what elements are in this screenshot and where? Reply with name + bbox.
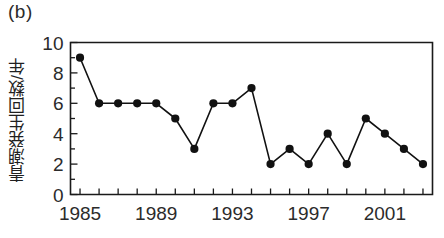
y-tick-label: 6 — [53, 93, 64, 114]
y-tick-label: 8 — [53, 63, 64, 84]
x-axis-tick-labels: 19851989199319972001 — [59, 203, 406, 224]
data-point — [266, 160, 274, 168]
data-point — [114, 99, 122, 107]
y-tick-label: 2 — [53, 154, 64, 175]
figure-panel: (b) 青潮発生回数/年 0246810 1985198919931997200… — [0, 0, 444, 238]
data-point — [305, 160, 313, 168]
x-tick-label: 1997 — [288, 203, 330, 224]
data-point — [324, 130, 332, 138]
x-tick-label: 1993 — [211, 203, 253, 224]
data-point — [228, 99, 236, 107]
data-point — [343, 160, 351, 168]
data-point — [152, 99, 160, 107]
data-point-markers — [76, 54, 427, 169]
y-axis-tick-labels: 0246810 — [42, 33, 64, 206]
data-point — [286, 145, 294, 153]
data-point — [400, 145, 408, 153]
y-tick-label: 4 — [53, 124, 64, 145]
data-point — [76, 54, 84, 62]
data-point — [247, 84, 255, 92]
y-tick-label: 10 — [42, 33, 63, 54]
data-point — [95, 99, 103, 107]
data-point — [190, 145, 198, 153]
data-point — [362, 114, 370, 122]
plot-frame — [71, 43, 433, 195]
data-point — [133, 99, 141, 107]
x-tick-label: 1989 — [135, 203, 177, 224]
data-point — [171, 114, 179, 122]
data-point — [419, 160, 427, 168]
data-point — [381, 130, 389, 138]
data-series-line — [80, 58, 423, 164]
x-tick-label: 2001 — [364, 203, 406, 224]
x-tick-label: 1985 — [59, 203, 101, 224]
data-point — [209, 99, 217, 107]
line-chart: 0246810 19851989199319972001 — [0, 0, 444, 238]
axis-tick-marks — [71, 43, 423, 195]
